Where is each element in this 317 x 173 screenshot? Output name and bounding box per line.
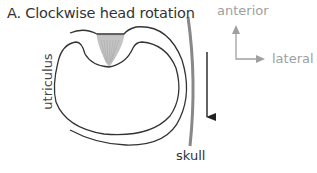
anterior-label: anterior bbox=[217, 3, 269, 18]
skull-label: skull bbox=[176, 148, 205, 163]
utriculus-outer-outline bbox=[70, 27, 187, 145]
utriculus-label: utriculus bbox=[40, 53, 55, 109]
utriculus-inner-outline bbox=[54, 42, 179, 135]
lateral-label: lateral bbox=[272, 51, 314, 66]
lateral-arrow-icon bbox=[256, 55, 265, 63]
hair-bundle bbox=[97, 35, 124, 67]
figure-title: A. Clockwise head rotation bbox=[7, 5, 195, 21]
anterior-arrow-icon bbox=[232, 25, 240, 34]
orientation-axes bbox=[232, 25, 265, 63]
skull-wall bbox=[188, 17, 193, 146]
